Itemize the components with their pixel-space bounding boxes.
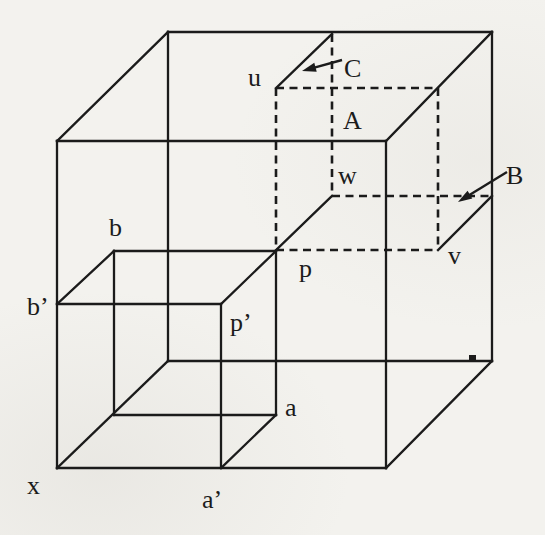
edge-small-depth-p [221,251,276,304]
label-a: a [285,393,297,422]
edge-big-depth-top-right [386,32,492,141]
arrow-B [458,172,507,202]
edge-small-depth-b [57,251,114,304]
edge-dashedcube-depth-u [276,34,332,88]
label-p: p [299,254,312,283]
label-v: v [448,241,461,270]
arrow-C [302,60,342,72]
label-face-A: A [343,106,362,135]
edge-big-depth-bottom-right [386,361,492,468]
edge-dashedcube-depth-p [276,196,332,250]
label-w: w [338,161,357,190]
label-x: x [27,471,40,500]
arrow-B-line [467,172,507,196]
label-a-prime: a’ [202,485,222,514]
edge-big-depth-top-left [57,32,168,141]
edge-dashedcube-depth-v [438,196,492,250]
cube-diagram: uwvpp’bb’aa’xABC [0,0,545,535]
edge-small-depth-a [221,415,276,468]
scanned-page: uwvpp’bb’aa’xABC [0,0,545,535]
arrow-C-line [313,60,342,68]
ink-speck [469,355,476,360]
label-p-prime: p’ [230,308,252,337]
label-face-B: B [506,161,523,190]
label-face-C: C [344,54,361,83]
label-b-prime: b’ [27,292,49,321]
arrow-C-head [302,63,317,72]
label-u: u [248,63,261,92]
label-b: b [109,213,122,242]
